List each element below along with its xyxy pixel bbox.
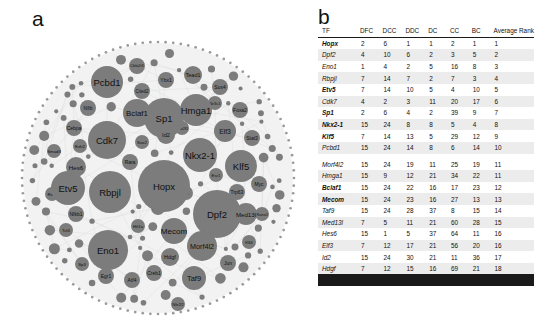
network-node-small[interactable]: Tcf4 xyxy=(59,223,73,237)
network-node-micro[interactable] xyxy=(128,235,133,240)
network-node-small[interactable]: Nfkb1 xyxy=(68,206,84,222)
network-node-micro[interactable] xyxy=(256,99,261,104)
network-node-micro[interactable] xyxy=(245,252,251,258)
network-node-large[interactable]: Med13l xyxy=(235,203,257,225)
network-node-large[interactable]: Bclaf1 xyxy=(123,99,151,127)
network-node-small[interactable]: Ezh2 xyxy=(73,139,87,153)
table-row[interactable]: Pcbd1152414861410 xyxy=(318,142,534,154)
network-node-micro[interactable] xyxy=(238,262,248,272)
network-node-micro[interactable] xyxy=(169,150,174,155)
network-node-micro[interactable] xyxy=(198,181,203,186)
table-row[interactable]: Rbpjl71472734 xyxy=(318,72,534,84)
network-node-micro[interactable] xyxy=(44,119,50,125)
network-node-large[interactable]: Cdk7 xyxy=(88,121,126,159)
table-row[interactable]: Eno114251683 xyxy=(318,61,534,73)
network-node-large[interactable]: Klf5 xyxy=(225,150,257,182)
network-node-micro[interactable] xyxy=(265,134,271,140)
table-row[interactable]: Bclaf115242216172312 xyxy=(318,182,534,194)
network-node-small[interactable]: Tead1 xyxy=(184,66,202,84)
network-node-small[interactable]: Sox4 xyxy=(212,79,228,95)
network-node-micro[interactable] xyxy=(49,164,53,168)
network-node-small[interactable]: Ybx1 xyxy=(158,72,174,88)
network-node-micro[interactable] xyxy=(130,295,138,303)
network-node-micro[interactable] xyxy=(131,210,135,214)
network-node-micro[interactable] xyxy=(39,131,49,141)
network-node-micro[interactable] xyxy=(64,92,70,98)
network-node-large[interactable]: Hmga1 xyxy=(180,94,212,126)
network-node-micro[interactable] xyxy=(79,92,84,97)
network-node-micro[interactable] xyxy=(169,279,177,287)
network-node-micro[interactable] xyxy=(258,110,264,116)
table-row[interactable]: Hdgf7121516692118 xyxy=(318,263,534,275)
network-node-micro[interactable] xyxy=(161,290,171,300)
network-node-small[interactable]: Runx1 xyxy=(255,207,269,221)
network-node-large[interactable]: Taf9 xyxy=(182,266,206,290)
network-node-small[interactable]: Stat3 xyxy=(244,130,260,146)
network-node-micro[interactable] xyxy=(258,249,263,254)
network-node-small[interactable]: Cbfa2t3 xyxy=(129,58,145,74)
network-node-micro[interactable] xyxy=(86,154,91,159)
network-node-micro[interactable] xyxy=(141,300,147,306)
network-node-micro[interactable] xyxy=(107,102,116,111)
network-node-micro[interactable] xyxy=(29,145,39,155)
network-node-large[interactable]: Morf4l2 xyxy=(187,231,217,261)
table-row[interactable]: Nkx2-1152488548 xyxy=(318,119,534,131)
network-node-micro[interactable] xyxy=(62,258,67,263)
network-node-micro[interactable] xyxy=(199,294,204,299)
network-node-micro[interactable] xyxy=(255,224,262,231)
table-row[interactable]: Sp126423997 xyxy=(318,107,534,119)
network-node-large[interactable]: Rbpjl xyxy=(89,171,131,213)
network-node-micro[interactable] xyxy=(270,185,275,190)
network-node-micro[interactable] xyxy=(32,163,37,168)
network-node-micro[interactable] xyxy=(272,204,280,212)
network-node-micro[interactable] xyxy=(201,84,208,91)
network-node-micro[interactable] xyxy=(271,220,275,224)
network-node-micro[interactable] xyxy=(276,154,283,161)
network-node-large[interactable]: Id2 xyxy=(157,126,175,144)
table-row[interactable]: Mecom15242316271313 xyxy=(318,193,534,205)
network-node-micro[interactable] xyxy=(148,222,157,231)
network-node-small[interactable]: Esr1 xyxy=(209,168,223,182)
network-node-micro[interactable] xyxy=(32,197,41,206)
network-node-micro[interactable] xyxy=(67,247,72,252)
network-node-micro[interactable] xyxy=(277,178,282,183)
network-node-micro[interactable] xyxy=(259,120,263,124)
table-row[interactable]: Hmga11591221342211 xyxy=(318,170,534,182)
network-node-micro[interactable] xyxy=(69,84,75,90)
network-node-micro[interactable] xyxy=(45,225,55,235)
network-node-micro[interactable] xyxy=(49,243,60,254)
network-node-large[interactable]: Eno1 xyxy=(88,230,128,270)
table-row[interactable]: Med13l751121602815 xyxy=(318,217,534,229)
network-node-micro[interactable] xyxy=(136,204,141,209)
table-row[interactable]: Taf91524283781514 xyxy=(318,205,534,217)
network-node-large[interactable]: Hdgf xyxy=(161,248,179,266)
network-node-micro[interactable] xyxy=(240,122,244,126)
network-node-micro[interactable] xyxy=(54,109,58,113)
network-node-micro[interactable] xyxy=(151,149,159,157)
network-node-small[interactable]: Hif1a xyxy=(131,219,145,233)
network-node-micro[interactable] xyxy=(116,55,126,65)
network-node-small[interactable]: Rara xyxy=(122,154,138,170)
network-node-small[interactable]: Foxa2 xyxy=(232,102,248,118)
network-node-small[interactable]: Klf4 xyxy=(242,235,256,249)
network-node-micro[interactable] xyxy=(89,219,94,224)
network-node-micro[interactable] xyxy=(30,178,35,183)
table-row[interactable]: Hopx2611211 xyxy=(318,37,534,49)
network-node-large[interactable]: Dpf2 xyxy=(193,190,241,238)
network-node-large[interactable]: Elf3 xyxy=(214,120,236,142)
table-row[interactable]: Id215243021113617 xyxy=(318,251,534,263)
network-node-micro[interactable] xyxy=(183,208,190,215)
network-node-small[interactable]: Sp3 xyxy=(75,257,89,271)
network-node-micro[interactable] xyxy=(79,81,84,86)
network-node-micro[interactable] xyxy=(165,49,174,58)
network-node-micro[interactable] xyxy=(61,115,67,121)
network-node-micro[interactable] xyxy=(177,68,181,72)
network-node-small[interactable]: Nfe2l2 xyxy=(171,297,185,311)
network-node-large[interactable]: Hopx xyxy=(138,160,190,212)
network-node-micro[interactable] xyxy=(232,243,239,250)
network-node-micro[interactable] xyxy=(128,77,133,82)
network-node-small[interactable]: Egr1 xyxy=(98,268,114,284)
network-node-micro[interactable] xyxy=(140,236,145,241)
network-node-small[interactable]: Creb1 xyxy=(146,265,162,281)
table-row[interactable]: Cdk74231120176 xyxy=(318,96,534,108)
